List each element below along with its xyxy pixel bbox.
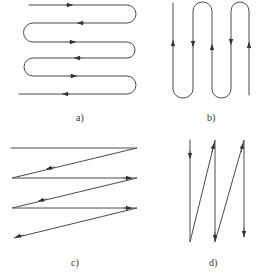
direction-arrow-icons [63,5,84,94]
panel-b: b) [173,2,249,124]
panel-label-a: a) [76,112,84,124]
panel-a: a) [19,5,136,124]
direction-arrow-icons [190,144,244,240]
direction-arrow-icons [173,39,249,50]
serpentine-horizontal-path [19,5,136,94]
panel-label-c: c) [71,257,79,269]
panel-c: c) [11,148,137,269]
zigzag-horizontal-path [11,148,137,238]
panel-d: d) [190,140,244,269]
zigzag-vertical-path [190,140,244,242]
panel-label-d: d) [209,257,217,269]
scan-path-figure: a) b) c) [0,0,257,273]
serpentine-vertical-path [173,2,249,98]
panel-label-b: b) [207,112,215,124]
